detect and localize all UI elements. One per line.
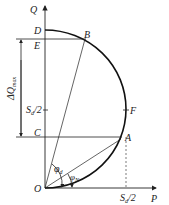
origin-label: O	[34, 183, 41, 194]
power-circle-diagram: Q P O D E C B F A ΔQmax Sd/2 Sd/2 φd φN	[0, 0, 169, 205]
s-half-p-label: Sd/2	[120, 192, 136, 204]
line-o-b	[45, 39, 85, 188]
s-half-q-label: Sd/2	[26, 104, 42, 116]
phi-d-label: φd	[54, 163, 64, 175]
point-c-label: C	[34, 127, 41, 138]
point-b-label: B	[84, 29, 90, 40]
phi-n-label: φN	[70, 172, 80, 183]
p-axis-label: P	[150, 193, 157, 204]
point-e-label: E	[33, 40, 40, 51]
point-d-label: D	[33, 25, 42, 36]
delta-q-max-label: ΔQmax	[5, 77, 17, 101]
point-a-label: A	[124, 132, 132, 143]
q-axis-label: Q	[30, 4, 38, 15]
point-f-label: F	[129, 105, 137, 116]
